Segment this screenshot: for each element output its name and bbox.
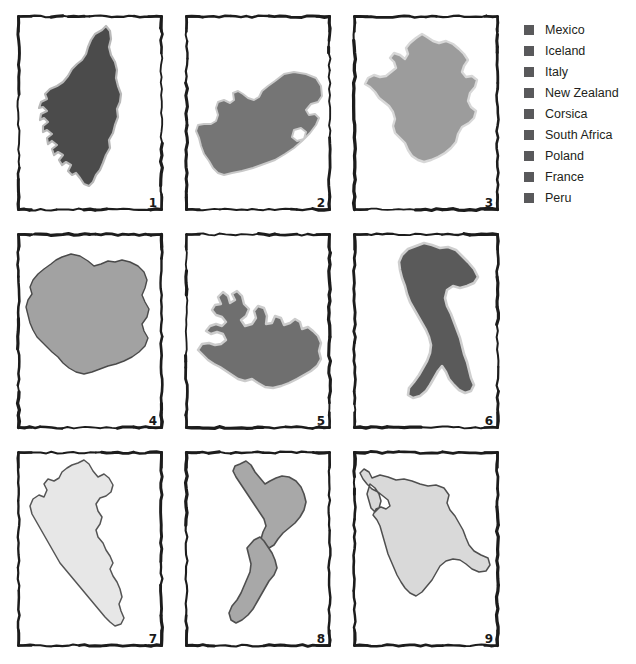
legend-item-italy[interactable]: Italy (524, 62, 634, 82)
panel-5[interactable]: 5 (182, 230, 334, 432)
panel-6[interactable]: 6 (350, 230, 502, 432)
legend-swatch-icon (524, 88, 534, 98)
map-shape-new-zealand (182, 448, 334, 650)
legend: Mexico Iceland Italy New Zealand Corsica… (524, 20, 634, 209)
map-shape-france (350, 12, 502, 214)
map-shape-mexico (350, 448, 502, 650)
map-shape-poland (14, 230, 166, 432)
legend-label: Peru (545, 192, 571, 205)
country-shapes-figure: 1 2 3 4 (0, 0, 636, 664)
legend-label: Corsica (545, 108, 587, 121)
panel-3[interactable]: 3 (350, 12, 502, 214)
corsica-path (39, 26, 121, 186)
poland-path (26, 254, 149, 374)
legend-swatch-icon (524, 109, 534, 119)
legend-label: Iceland (545, 45, 585, 58)
map-shape-iceland (182, 230, 334, 432)
map-shape-italy (350, 230, 502, 432)
panel-2[interactable]: 2 (182, 12, 334, 214)
legend-item-peru[interactable]: Peru (524, 188, 634, 208)
peru-path (30, 460, 124, 626)
map-shape-south-africa (182, 12, 334, 214)
panel-grid: 1 2 3 4 (14, 12, 510, 656)
legend-item-iceland[interactable]: Iceland (524, 41, 634, 61)
panel-8[interactable]: 8 (182, 448, 334, 650)
iceland-path (198, 291, 321, 388)
map-shape-peru (14, 448, 166, 650)
legend-label: France (545, 171, 584, 184)
panel-number: 1 (149, 197, 157, 209)
legend-item-poland[interactable]: Poland (524, 146, 634, 166)
legend-item-france[interactable]: France (524, 167, 634, 187)
italy-path (399, 243, 478, 398)
panel-number: 9 (485, 633, 493, 645)
legend-label: South Africa (545, 129, 612, 142)
panel-number: 2 (317, 197, 325, 209)
legend-label: Italy (545, 66, 568, 79)
south-africa-path (196, 72, 322, 175)
panel-number: 5 (317, 415, 325, 427)
legend-swatch-icon (524, 193, 534, 203)
legend-label: Poland (545, 150, 584, 163)
legend-swatch-icon (524, 25, 534, 35)
new-zealand-north-path (233, 461, 306, 548)
panel-number: 4 (149, 415, 157, 427)
panel-9[interactable]: 9 (350, 448, 502, 650)
panel-number: 6 (485, 415, 493, 427)
legend-label: New Zealand (545, 87, 619, 100)
panel-7[interactable]: 7 (14, 448, 166, 650)
legend-label: Mexico (545, 24, 585, 37)
legend-swatch-icon (524, 151, 534, 161)
legend-swatch-icon (524, 172, 534, 182)
new-zealand-south-path (229, 537, 277, 623)
legend-item-mexico[interactable]: Mexico (524, 20, 634, 40)
panel-number: 7 (149, 633, 157, 645)
map-shape-corsica (14, 12, 166, 214)
mexico-path (360, 469, 490, 596)
legend-swatch-icon (524, 130, 534, 140)
legend-item-south-africa[interactable]: South Africa (524, 125, 634, 145)
panel-number: 8 (317, 633, 325, 645)
legend-swatch-icon (524, 46, 534, 56)
panel-1[interactable]: 1 (14, 12, 166, 214)
panel-4[interactable]: 4 (14, 230, 166, 432)
legend-item-new-zealand[interactable]: New Zealand (524, 83, 634, 103)
legend-item-corsica[interactable]: Corsica (524, 104, 634, 124)
panel-number: 3 (485, 197, 493, 209)
legend-swatch-icon (524, 67, 534, 77)
france-path (365, 34, 477, 162)
